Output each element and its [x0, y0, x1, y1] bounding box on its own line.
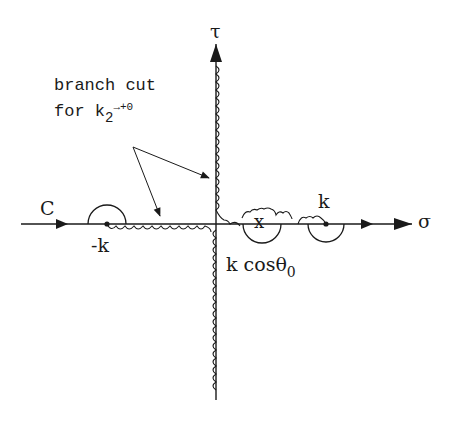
tau-axis-arrowhead-icon — [210, 44, 222, 62]
point-plus-k-label: k — [318, 192, 330, 211]
tau-axis-label: τ — [210, 22, 221, 41]
annotation-arrow-to-tau-cut — [133, 147, 209, 178]
branch-cut-lower-wavy — [213, 230, 216, 390]
branch-cut-annotation-line1: branch cut — [54, 77, 156, 94]
sigma-axis-label: σ — [418, 212, 431, 231]
indentation-plus-k — [308, 224, 344, 242]
annotation-arrow-to-sigma-cut — [133, 147, 160, 216]
complex-plane-diagram — [0, 0, 457, 427]
contour-direction-arrow-icon — [361, 219, 373, 229]
point-minus-k-dot-icon — [104, 221, 109, 226]
branch-cut-upper-wavy — [216, 66, 240, 226]
contour-label: C — [40, 199, 55, 218]
annotation-prefix: for k — [54, 102, 105, 121]
branch-cut-annotation-line2: for k2→+0 — [54, 103, 133, 120]
indentation-minus-k — [88, 205, 126, 224]
contour-direction-arrow-icon — [56, 219, 68, 229]
sigma-axis-arrowhead-icon — [394, 218, 412, 230]
pole-label-subscript: 0 — [287, 264, 296, 280]
pole-label: k cosθ0 — [226, 255, 296, 274]
annotation-limit: →+0 — [113, 101, 133, 113]
branch-cut-left-wavy — [107, 224, 211, 232]
pole-marker-x: x — [254, 213, 264, 231]
point-plus-k-dot-icon — [323, 221, 328, 226]
point-minus-k-label: -k — [91, 236, 109, 255]
pole-label-prefix: k cosθ — [226, 253, 287, 275]
